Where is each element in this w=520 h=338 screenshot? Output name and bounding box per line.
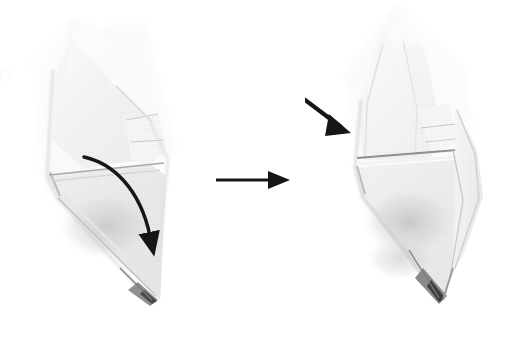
scan-edge-artifact <box>0 68 11 81</box>
step-transition-arrow: becomes <box>210 150 305 210</box>
after-fold-figure: After the fold Resulting crease <box>305 0 520 338</box>
fold-down-arrow <box>0 0 215 338</box>
origami-step-figure: Before the fold Fold the top flap down b… <box>0 0 520 338</box>
arrow-right-icon <box>210 150 305 210</box>
new-crease-pointer-arrow <box>305 0 520 338</box>
before-fold-figure: Before the fold Fold the top flap down <box>0 0 215 338</box>
